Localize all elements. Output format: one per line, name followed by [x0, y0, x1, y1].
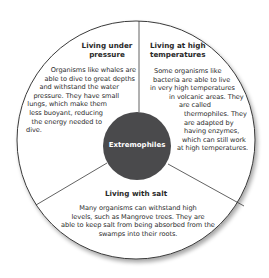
section-body-salt: Many organisms can withstand high levels…	[50, 204, 226, 238]
section-heading-salt: Living with salt	[86, 189, 186, 198]
section-body-pressure: Organisms like whales are able to dive t…	[22, 66, 136, 135]
section-body-high-temperatures: Some organisms like bacteria are able to…	[150, 67, 255, 153]
section-heading-high-temperatures: Living at high temperatures	[150, 41, 230, 59]
section-heading-pressure: Living under pressure	[76, 41, 138, 59]
